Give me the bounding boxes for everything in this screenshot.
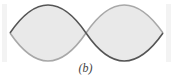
left-loop-fill [10,5,86,61]
right-loop-fill [86,5,163,61]
standing-wave-figure: (b) [0,0,171,78]
figure-caption: (b) [0,61,171,76]
